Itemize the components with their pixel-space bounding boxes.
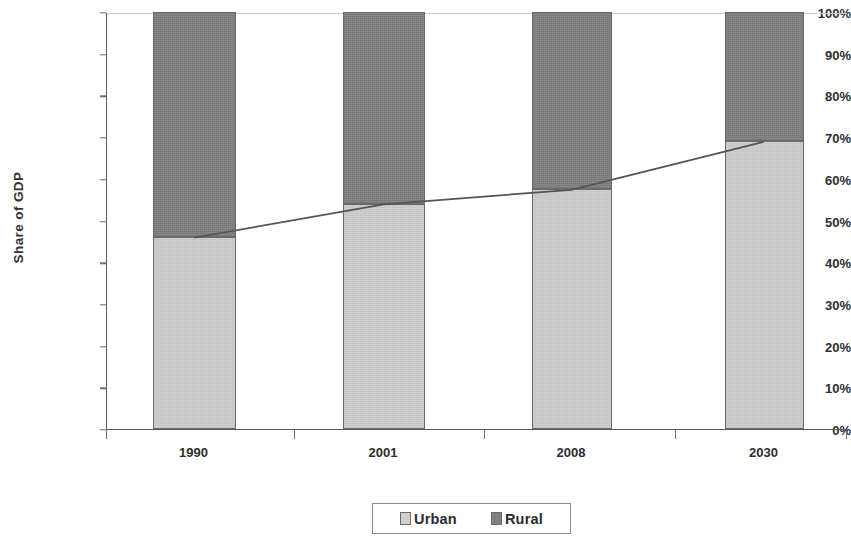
bar-segment-urban bbox=[532, 189, 612, 429]
bar-segment-rural bbox=[153, 12, 236, 237]
chart-legend: Urban Rural bbox=[372, 503, 571, 534]
trend-line-path bbox=[194, 142, 763, 238]
y-axis-title: Share of GDP bbox=[11, 138, 26, 298]
x-axis-tick-mark bbox=[106, 430, 107, 439]
legend-swatch-rural-icon bbox=[491, 512, 502, 525]
bar-segment-rural bbox=[725, 12, 804, 141]
legend-item-urban: Urban bbox=[400, 511, 457, 527]
x-axis-tick-label: 2008 bbox=[511, 445, 631, 460]
x-axis-tick-mark bbox=[846, 430, 847, 439]
bar-segment-rural bbox=[343, 12, 425, 204]
legend-label-rural: Rural bbox=[505, 511, 543, 527]
x-axis-tick-label: 2001 bbox=[323, 445, 443, 460]
legend-item-rural: Rural bbox=[491, 511, 543, 527]
x-axis-tick-mark bbox=[294, 430, 295, 439]
x-axis-tick-mark bbox=[675, 430, 676, 439]
plot-area bbox=[106, 13, 847, 430]
bar-group bbox=[343, 12, 425, 429]
bar-segment-rural bbox=[532, 12, 612, 189]
bar-group bbox=[725, 12, 804, 429]
bar-segment-urban bbox=[153, 237, 236, 429]
x-axis-tick-label: 2030 bbox=[704, 445, 824, 460]
x-axis-tick-mark bbox=[484, 430, 485, 439]
legend-swatch-urban-icon bbox=[400, 512, 411, 525]
bar-group bbox=[153, 12, 236, 429]
bar-segment-urban bbox=[343, 204, 425, 429]
bar-segment-urban bbox=[725, 141, 804, 429]
legend-label-urban: Urban bbox=[414, 511, 457, 527]
stacked-bar-chart: Share of GDP 0%10%20%30%40%50%60%70%80%9… bbox=[0, 0, 851, 546]
bar-group bbox=[532, 12, 612, 429]
x-axis-tick-label: 1990 bbox=[134, 445, 254, 460]
